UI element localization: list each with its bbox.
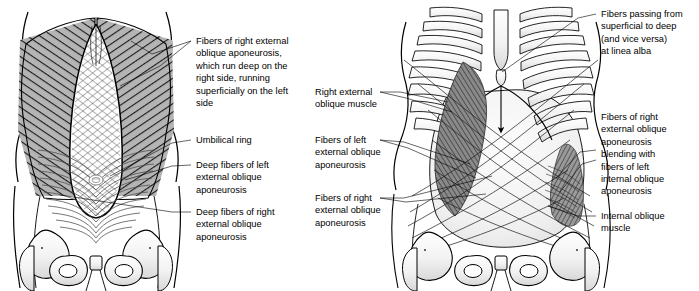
anatomy-figure: Fibers of right external oblique aponeur… (0, 0, 699, 291)
umbilical-ring (89, 175, 103, 185)
label-umbilical-ring: Umbilical ring (196, 135, 252, 145)
